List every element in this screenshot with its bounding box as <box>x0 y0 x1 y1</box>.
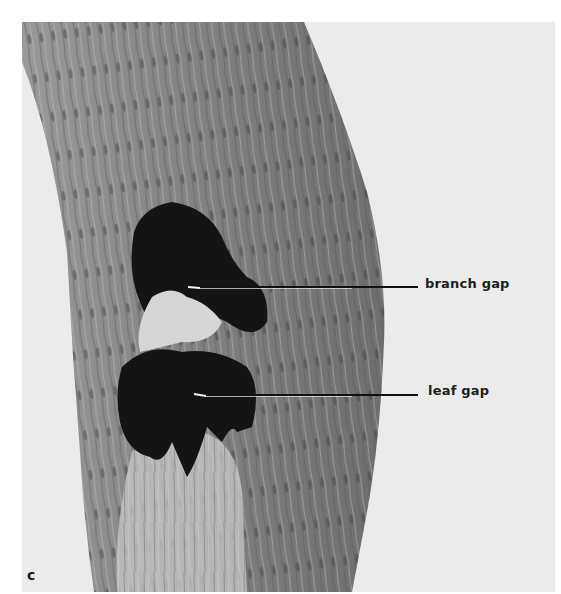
branch-gap-label: branch gap <box>425 276 510 291</box>
panel-letter: c <box>27 567 35 583</box>
branch-gap-leader <box>188 287 418 289</box>
leaf-gap-leader <box>194 394 418 397</box>
stem-micrograph <box>22 22 555 592</box>
leaf-gap-label: leaf gap <box>428 383 489 398</box>
stem-illustration <box>22 22 555 592</box>
